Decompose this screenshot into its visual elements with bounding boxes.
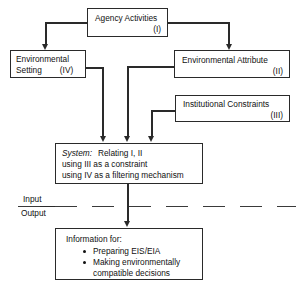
environmental-setting-label-line1: Environmental bbox=[16, 54, 80, 65]
environmental-setting-label-line2-row: Setting(IV) bbox=[16, 65, 80, 76]
connector-system-to-information-vertical bbox=[127, 184, 129, 222]
information-bullet-2-line1: Making environmentally bbox=[93, 257, 180, 267]
environmental-attribute-label: Environmental Attribute bbox=[182, 55, 283, 66]
input-label: Input bbox=[21, 194, 43, 204]
connector-constraints-to-system-vertical bbox=[151, 110, 153, 137]
connector-attribute-to-system-horizontal bbox=[127, 66, 175, 68]
flow-diagram: Input Output Agency Activities (I) Envir… bbox=[0, 0, 298, 290]
node-institutional-constraints: Institutional Constraints (III) bbox=[175, 95, 290, 122]
connector-agency-to-setting-vertical bbox=[45, 22, 47, 45]
list-item: Preparing EIS/EIA bbox=[82, 246, 197, 257]
information-bullet-1: Preparing EIS/EIA bbox=[93, 246, 160, 256]
node-agency-activities: Agency Activities (I) bbox=[87, 8, 168, 37]
environmental-attribute-numeral: (II) bbox=[182, 66, 283, 77]
system-line1-row: System:Relating I, II bbox=[62, 148, 197, 159]
output-label: Output bbox=[19, 208, 48, 218]
connector-constraints-to-system-horizontal bbox=[151, 110, 176, 112]
system-keyword: System: bbox=[62, 148, 92, 158]
arrowhead-constraints-into-system bbox=[148, 136, 154, 142]
connector-setting-to-system-vertical bbox=[102, 67, 104, 137]
arrowhead-setting-into-system bbox=[100, 136, 106, 142]
connector-agency-to-attribute-vertical bbox=[228, 22, 230, 45]
node-system: System:Relating I, II using III as a con… bbox=[55, 143, 203, 184]
information-bullet-list: Preparing EIS/EIA Making environmentally… bbox=[66, 246, 197, 279]
list-item: Making environmentallycompatible decisio… bbox=[82, 257, 197, 279]
input-output-divider-dashed bbox=[18, 206, 296, 207]
environmental-setting-label-line2: Setting bbox=[16, 65, 42, 75]
connector-agency-to-setting-horizontal bbox=[45, 22, 88, 24]
institutional-constraints-label: Institutional Constraints bbox=[183, 99, 283, 110]
system-line3: using IV as a filtering mechanism bbox=[62, 170, 197, 181]
connector-agency-to-attribute-horizontal bbox=[167, 22, 230, 24]
connector-attribute-to-system-vertical bbox=[127, 66, 129, 137]
arrowhead-into-information bbox=[124, 221, 130, 227]
system-line1: Relating I, II bbox=[92, 148, 142, 158]
arrowhead-attribute-into-system bbox=[124, 136, 130, 142]
institutional-constraints-numeral: (III) bbox=[183, 110, 283, 121]
node-environmental-attribute: Environmental Attribute (II) bbox=[174, 50, 290, 78]
agency-activities-numeral: (I) bbox=[95, 24, 161, 35]
connector-setting-to-system-horizontal bbox=[85, 67, 104, 69]
information-bullet-2-line2: compatible decisions bbox=[93, 268, 170, 278]
agency-activities-label: Agency Activities bbox=[95, 13, 161, 24]
environmental-setting-numeral: (IV) bbox=[42, 65, 73, 75]
system-line2: using III as a constraint bbox=[62, 159, 197, 170]
node-environmental-setting: Environmental Setting(IV) bbox=[10, 50, 86, 78]
node-information: Information for: Preparing EIS/EIA Makin… bbox=[55, 228, 203, 280]
information-header: Information for: bbox=[66, 234, 197, 245]
